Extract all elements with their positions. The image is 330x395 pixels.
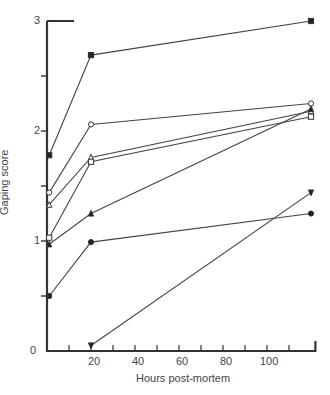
x-tick-label-100: 100 <box>260 355 278 367</box>
y-axis-title: Gaping score <box>0 150 10 215</box>
y-tick-label-2: 2 <box>34 124 40 136</box>
y-tick-label-3: 3 <box>34 14 40 26</box>
y-tick-label-0: 0 <box>30 344 36 356</box>
x-tick-label-80: 80 <box>220 355 232 367</box>
x-tick-label-40: 40 <box>132 355 144 367</box>
series-filled-square <box>49 21 311 155</box>
line-chart <box>0 0 330 395</box>
series-filled-inverted-triangle <box>91 193 311 346</box>
y-tick-label-1: 1 <box>34 234 40 246</box>
x-axis-title: Hours post-mortem <box>136 372 230 384</box>
x-tick-label-20: 20 <box>88 355 100 367</box>
series-open-circle <box>49 104 311 193</box>
x-tick-label-60: 60 <box>176 355 188 367</box>
axes <box>47 21 315 351</box>
